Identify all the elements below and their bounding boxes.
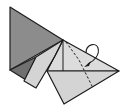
bottom-flap: [47, 71, 119, 104]
origami-diagram: [0, 0, 122, 106]
